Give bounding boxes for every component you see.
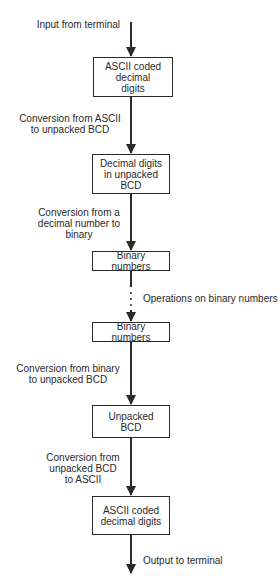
edge-label-output: Output to terminal <box>143 555 263 566</box>
flowchart-canvas: Input from terminal Conversion from ASCI… <box>0 0 280 585</box>
node-ascii-input: ASCII coded decimal digits <box>93 57 173 97</box>
node-binary-numbers-1: Binary numbers <box>92 251 170 271</box>
edge-label-input: Input from terminal <box>20 19 120 30</box>
edge-label-ascii-to-bcd: Conversion from ASCII to unpacked BCD <box>12 113 128 135</box>
node-bcd-input: Decimal digits in unpacked BCD <box>92 154 170 194</box>
node-ascii-output: ASCII coded decimal digits <box>92 496 170 535</box>
node-unpacked-bcd: Unpacked BCD <box>92 405 170 438</box>
operations-dot-2 <box>130 298 132 300</box>
node-binary-numbers-2: Binary numbers <box>92 322 170 342</box>
edge-label-binary-to-bcd: Conversion from binary to unpacked BCD <box>10 363 126 385</box>
operations-dot-3 <box>130 304 132 306</box>
edge-label-decimal-to-binary: Conversion from a decimal number to bina… <box>30 207 128 240</box>
edge-label-bcd-to-ascii: Conversion from unpacked BCD to ASCII <box>40 452 126 485</box>
operations-dot-1 <box>130 292 132 294</box>
edge-label-operations: Operations on binary numbers <box>143 293 280 304</box>
